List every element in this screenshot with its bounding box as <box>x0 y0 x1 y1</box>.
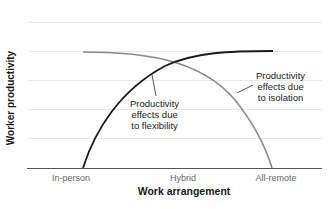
flexibility-annotation: Productivity effects due to flexibility <box>130 98 179 131</box>
flexibility-leader-line <box>152 75 156 96</box>
annotation-line: Productivity <box>256 70 305 81</box>
y-axis-title-text: Worker productivity <box>5 51 16 145</box>
x-tick-hybrid: Hybrid <box>170 173 196 183</box>
annotation-line: to isolation <box>256 92 305 103</box>
x-tick-in-person: In-person <box>52 173 90 183</box>
isolation-annotation: Productivity effects due to isolation <box>256 70 305 103</box>
x-axis-title: Work arrangement <box>138 185 231 197</box>
y-axis-title: Worker productivity <box>3 38 17 158</box>
annotation-line: Productivity <box>130 98 179 109</box>
annotation-line: to flexibility <box>130 120 179 131</box>
annotation-line: effects due <box>130 109 179 120</box>
x-tick-all-remote: All-remote <box>255 173 296 183</box>
annotation-line: effects due <box>256 81 305 92</box>
isolation-leader-line <box>237 85 253 93</box>
chart: Worker productivity In-person Hybrid All… <box>0 0 330 209</box>
